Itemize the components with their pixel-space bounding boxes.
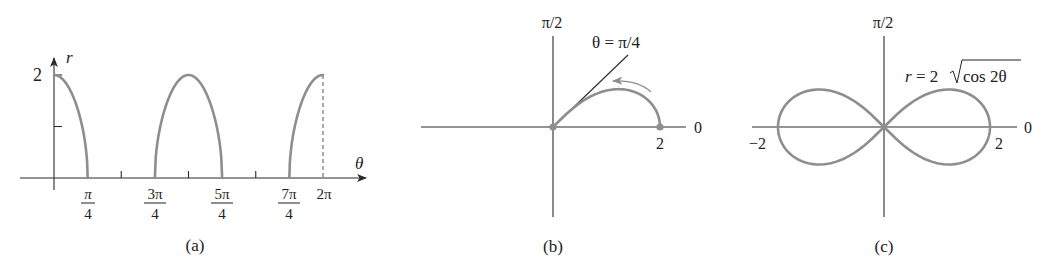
- label-2: 2: [995, 135, 1003, 152]
- svg-text:4: 4: [218, 206, 226, 222]
- half-lemniscate-curve: [553, 89, 660, 127]
- x-ticks: [121, 171, 256, 178]
- r-axis-label: r: [66, 48, 73, 67]
- formula-label: r = 2 cos 2θ: [905, 60, 1021, 86]
- panel-c: π/2 0 −2 2 r = 2 cos 2θ (c): [749, 14, 1032, 256]
- origin-point: [549, 123, 556, 130]
- label-pi-2: π/2: [873, 14, 894, 31]
- curve-arc-3: [289, 75, 323, 177]
- svg-text:5π: 5π: [214, 186, 230, 202]
- theta-axis-label: θ: [355, 154, 363, 173]
- caption-c: (c): [875, 237, 894, 256]
- label-2: 2: [656, 135, 664, 152]
- caption-b: (b): [543, 237, 563, 256]
- svg-text:r = 2: r = 2: [905, 67, 938, 86]
- x-label-5pi-4: 5π 4: [211, 186, 233, 222]
- panel-a: r 2 θ π 4 3π 4 5π 4 7π 4 2π (a): [20, 48, 366, 255]
- svg-text:3π: 3π: [147, 186, 163, 202]
- svg-text:π: π: [84, 186, 92, 202]
- caption-a: (a): [186, 236, 205, 255]
- x-label-7pi-4: 7π 4: [278, 186, 300, 222]
- x-label-pi-4: π 4: [81, 186, 95, 222]
- x-label-3pi-4: 3π 4: [144, 186, 166, 222]
- x-label-2pi: 2π: [316, 186, 332, 202]
- svg-text:7π: 7π: [281, 186, 297, 202]
- figure: r 2 θ π 4 3π 4 5π 4 7π 4 2π (a): [0, 0, 1050, 271]
- y-tick-label-2: 2: [33, 65, 42, 85]
- label-pi-2: π/2: [542, 14, 563, 31]
- point-r-2: [656, 123, 663, 130]
- formula-radicand: cos 2θ: [963, 67, 1007, 86]
- svg-text:4: 4: [151, 206, 159, 222]
- svg-text:4: 4: [84, 206, 92, 222]
- curve-arc-2: [155, 75, 222, 178]
- label-0: 0: [694, 119, 702, 136]
- label-theta-pi-4: θ = π/4: [592, 33, 641, 52]
- label-minus-2: −2: [749, 135, 766, 152]
- label-0: 0: [1024, 119, 1032, 136]
- svg-text:4: 4: [285, 206, 293, 222]
- panel-b: π/2 0 2 θ = π/4 (b): [421, 14, 702, 256]
- r-theta-curve: [54, 75, 323, 178]
